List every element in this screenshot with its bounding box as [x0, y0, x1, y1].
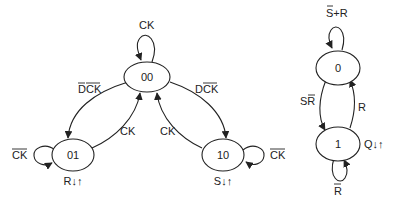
- state-1-output: Q↓↑: [364, 138, 384, 150]
- left-fsm: CK DCK CK DCK CK CK CK 00 01 R↓↑ 10 S↓↑: [12, 19, 286, 187]
- edge-1-to-0: [350, 80, 355, 128]
- state-01-label: 01: [67, 149, 79, 161]
- edge-0-to-1-label: SR: [300, 95, 315, 107]
- loop-00-label: CK: [139, 19, 155, 31]
- right-fsm: S+R SR R R 0 1 Q↓↑: [300, 6, 384, 197]
- edge-00-to-01-label: DCK: [78, 83, 102, 95]
- edge-10-to-00: [157, 93, 202, 148]
- state-01-output: R↓↑: [64, 175, 83, 187]
- loop-0-edge: [329, 27, 344, 50]
- edge-0-to-1: [320, 80, 326, 130]
- state-diagram: CK DCK CK DCK CK CK CK 00 01 R↓↑ 10 S↓↑: [0, 0, 396, 202]
- edge-01-to-00: [92, 93, 140, 148]
- loop-00-edge: [137, 35, 154, 62]
- state-10-output: S↓↑: [214, 175, 232, 187]
- loop-1-label: R: [334, 185, 342, 197]
- loop-0-label: S+R: [326, 7, 348, 19]
- loop-10-edge: [243, 146, 264, 164]
- state-1-label: 1: [335, 138, 341, 150]
- loop-01-label: CK: [12, 149, 28, 161]
- edge-01-to-00-label: CK: [120, 125, 136, 137]
- edge-1-to-0-label: R: [358, 101, 366, 113]
- edge-10-to-00-label: CK: [160, 125, 176, 137]
- edge-00-to-10-label: DCK: [195, 83, 219, 95]
- state-0-label: 0: [335, 62, 341, 74]
- state-00-label: 00: [141, 71, 153, 83]
- loop-10-label: CK: [270, 149, 286, 161]
- state-10-label: 10: [217, 149, 229, 161]
